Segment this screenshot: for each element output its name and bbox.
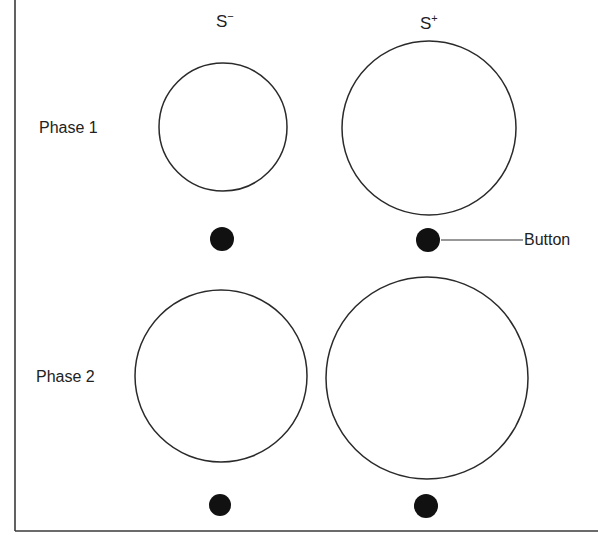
column-label-s-plus-base: S	[420, 14, 431, 33]
column-label-s-minus: S−	[216, 13, 234, 30]
phase-2-s-minus-button	[209, 494, 231, 516]
row-label-phase-1: Phase 1	[39, 120, 98, 136]
row-label-phase-2: Phase 2	[36, 369, 95, 385]
phase-1-s-plus-circle	[342, 41, 516, 215]
diagram-canvas	[0, 0, 598, 539]
phase-1-s-plus-button	[416, 228, 440, 252]
phase-2-s-plus-circle	[326, 277, 528, 479]
phase-2-s-minus-circle	[135, 290, 307, 462]
column-label-s-minus-superscript: −	[227, 10, 233, 22]
phase-2-s-plus-button	[414, 494, 438, 518]
phase-1-s-minus-button	[210, 227, 234, 251]
column-label-s-minus-base: S	[216, 12, 227, 31]
column-label-s-plus: S+	[420, 15, 438, 32]
column-label-s-plus-superscript: +	[431, 12, 437, 24]
phase-1-s-minus-circle	[159, 63, 287, 191]
button-annotation-label: Button	[524, 232, 570, 248]
